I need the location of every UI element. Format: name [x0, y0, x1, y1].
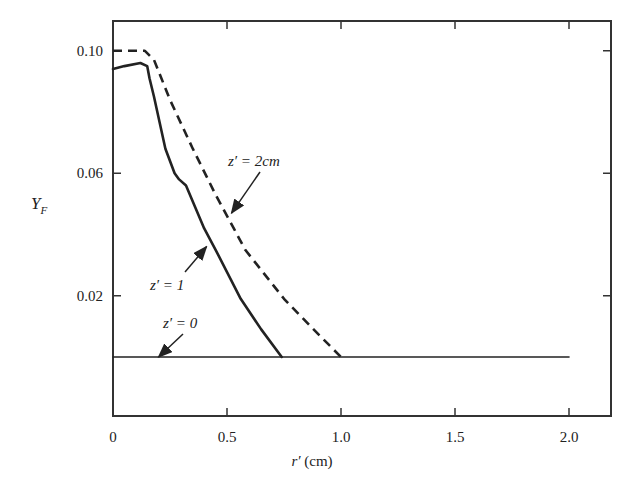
chart: 00.51.01.52.00.020.060.10 z′ = 2cm z′ = … [0, 0, 633, 501]
axis-labels: YF r′ (cm) [31, 194, 333, 470]
x-axis-label: r′ (cm) [291, 453, 332, 470]
annotation-z2: z′ = 2cm [227, 153, 280, 169]
axis-ticks: 00.51.01.52.00.020.060.10 [77, 21, 611, 445]
y-axis-label: YF [31, 194, 47, 216]
annotation-arrow-icon [232, 172, 260, 213]
y-tick-label: 0.06 [77, 165, 104, 181]
series-line-1 [113, 63, 282, 357]
series [113, 51, 569, 357]
y-tick-label: 0.02 [77, 288, 103, 304]
x-tick-label: 0.5 [218, 429, 237, 445]
x-tick-label: 2.0 [560, 429, 579, 445]
annotation-arrow-icon [159, 334, 183, 357]
x-tick-label: 0 [109, 429, 117, 445]
annotation-arrow-icon [185, 247, 206, 272]
annotation-z0: z′ = 0 [162, 315, 198, 331]
y-tick-label: 0.10 [77, 43, 103, 59]
x-tick-label: 1.5 [446, 429, 465, 445]
series-line-2 [113, 51, 341, 357]
annotation-z1: z′ = 1 [149, 277, 184, 293]
x-tick-label: 1.0 [332, 429, 351, 445]
